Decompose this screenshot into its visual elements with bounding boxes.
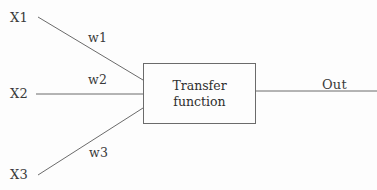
weight-label-w3: w3 [89,145,108,160]
output-label: Out [322,77,347,92]
neuron-diagram: X1 X2 X3 w1 w2 w3 Transfer function Out [0,0,377,190]
input-label-x2: X2 [10,86,28,101]
diagram-canvas [0,0,377,190]
weight-label-w1: w1 [88,30,107,45]
input-label-x1: X1 [10,10,28,25]
connection-line-x1 [38,17,143,80]
input-label-x3: X3 [10,167,28,182]
connection-line-x3 [38,108,143,175]
weight-label-w2: w2 [88,72,107,87]
transfer-function-box [144,64,256,124]
